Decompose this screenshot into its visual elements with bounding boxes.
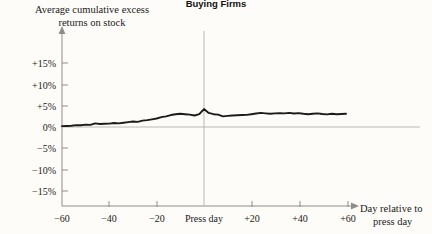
y-tick-label-15: +15% [32, 58, 56, 69]
line-chart: Buying Firms Average cumulative excess r… [0, 0, 432, 234]
x-axis-label-line1: Day relative to [360, 203, 422, 214]
y-tick-label-neg10: −10% [32, 165, 56, 176]
x-tick-label-60: +60 [340, 213, 356, 224]
x-tick-label-neg40: −40 [101, 213, 117, 224]
y-axis-label-line1: Average cumulative excess [35, 4, 149, 15]
y-tick-label-0: 0% [43, 122, 56, 133]
chart-container: Buying Firms Average cumulative excess r… [0, 0, 432, 234]
y-axis-label-line2: returns on stock [58, 17, 126, 28]
x-tick-label-neg60: −60 [54, 213, 70, 224]
y-tick-label-neg5: −5% [37, 143, 56, 154]
x-tick-label-press-day: Press day [185, 213, 223, 224]
y-tick-label-10: +10% [32, 80, 56, 91]
x-tick-label-20: +20 [244, 213, 260, 224]
chart-title: Buying Firms [186, 0, 247, 9]
y-tick-label-5: +5% [37, 101, 56, 112]
x-axis-arrow-icon [351, 203, 359, 210]
y-tick-label-neg15: −15% [32, 186, 56, 197]
x-tick-label-40: +40 [292, 213, 308, 224]
x-tick-label-neg20: −20 [149, 213, 165, 224]
x-axis-label-line2: press day [373, 216, 413, 227]
